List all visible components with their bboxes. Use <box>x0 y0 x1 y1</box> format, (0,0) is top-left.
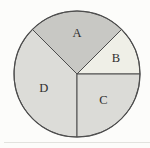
scan-line-artifact <box>4 142 150 143</box>
slice-label-b: B <box>112 51 120 65</box>
slice-label-a: A <box>72 26 81 40</box>
slice-label-d: D <box>39 81 48 95</box>
slice-label-c: C <box>99 93 107 107</box>
figure: BADC <box>0 0 150 148</box>
pie-slice-c <box>77 74 140 137</box>
pie-chart: BADC <box>0 0 150 148</box>
